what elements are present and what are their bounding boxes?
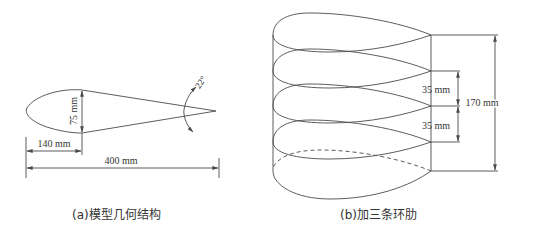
rib-3 — [273, 120, 431, 159]
bottom-section-visible-edge — [273, 171, 431, 199]
rib-spacing-2-label: 35 mm — [422, 120, 450, 131]
caption-panel-b: (b)加三条环肋 — [340, 205, 417, 222]
bottom-section-hidden-edge — [273, 150, 431, 171]
rib-spacing-1-label: 35 mm — [422, 84, 450, 95]
rib-1 — [273, 49, 431, 88]
trailing-edge-angle-arc — [184, 87, 196, 132]
thickness-label: 75 mm — [68, 97, 79, 125]
panel-b-ribbed-shell — [273, 13, 498, 199]
figure-canvas: 75 mm 140 mm 400 mm 22° 35 mm 35 mm 170 … — [0, 0, 534, 239]
rib-2 — [273, 84, 431, 123]
top-section — [273, 13, 431, 52]
chord-label: 400 mm — [104, 155, 137, 166]
caption-panel-a: (a)模型几何结构 — [72, 205, 161, 222]
max-thickness-position-label: 140 mm — [37, 138, 70, 149]
airfoil-profile — [26, 90, 216, 133]
total-height-label: 170 mm — [465, 97, 498, 108]
